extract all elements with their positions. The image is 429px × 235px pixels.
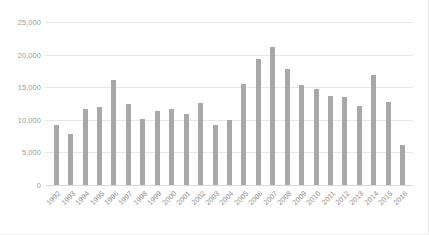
bar-slot <box>294 22 308 185</box>
x-label-slot: 2008 <box>280 186 294 232</box>
y-axis-tick-label: 5,000 <box>22 148 41 157</box>
bar-slot <box>179 22 193 185</box>
y-axis-tick-label: 25,000 <box>18 18 41 27</box>
bar-slot <box>266 22 280 185</box>
bar[interactable] <box>198 103 203 185</box>
bar-slot <box>92 22 106 185</box>
bar[interactable] <box>357 106 362 185</box>
bar-slot <box>107 22 121 185</box>
bar-slot <box>208 22 222 185</box>
bar[interactable] <box>241 84 246 185</box>
bar-slot <box>396 22 410 185</box>
bar[interactable] <box>111 80 116 185</box>
y-axis-tick-label: 20,000 <box>18 50 41 59</box>
bar-slot <box>193 22 207 185</box>
x-label-slot: 1996 <box>107 186 121 232</box>
bar-slot <box>323 22 337 185</box>
x-label-slot: 2010 <box>309 186 323 232</box>
bar[interactable] <box>371 75 376 185</box>
x-label-slot: 1993 <box>63 186 77 232</box>
bar[interactable] <box>68 134 73 186</box>
x-label-slot: 2011 <box>323 186 337 232</box>
x-label-slot: 2015 <box>381 186 395 232</box>
bar-slot <box>222 22 236 185</box>
bar-slot <box>352 22 366 185</box>
bar[interactable] <box>213 125 218 185</box>
x-label-slot: 2006 <box>251 186 265 232</box>
bar[interactable] <box>285 69 290 185</box>
y-axis-tick-label: 0 <box>37 181 41 190</box>
bar[interactable] <box>270 47 275 185</box>
x-label-slot: 2007 <box>266 186 280 232</box>
bar-slot <box>136 22 150 185</box>
bar-slot <box>280 22 294 185</box>
x-label-slot: 2001 <box>179 186 193 232</box>
x-label-slot: 1992 <box>49 186 63 232</box>
bar[interactable] <box>97 107 102 185</box>
bar[interactable] <box>155 111 160 185</box>
y-axis-tick-labels: 05,00010,00015,00020,00025,000 <box>0 22 41 185</box>
bar-slot <box>121 22 135 185</box>
bar[interactable] <box>140 119 145 186</box>
x-label-slot: 2002 <box>193 186 207 232</box>
bar[interactable] <box>299 85 304 185</box>
bar[interactable] <box>342 97 347 185</box>
x-label-slot: 2013 <box>352 186 366 232</box>
bar[interactable] <box>314 89 319 185</box>
bar[interactable] <box>328 96 333 185</box>
x-label-slot: 1998 <box>136 186 150 232</box>
x-label-slot: 1999 <box>150 186 164 232</box>
x-label-slot: 1997 <box>121 186 135 232</box>
x-label-slot: 2003 <box>208 186 222 232</box>
bar-slot <box>338 22 352 185</box>
bar[interactable] <box>83 109 88 185</box>
bar-slot <box>63 22 77 185</box>
x-label-slot: 2014 <box>367 186 381 232</box>
y-axis-tick-label: 10,000 <box>18 115 41 124</box>
x-label-slot: 1995 <box>92 186 106 232</box>
bar[interactable] <box>169 109 174 185</box>
bar-slot <box>165 22 179 185</box>
bar[interactable] <box>386 102 391 185</box>
bar[interactable] <box>400 145 405 185</box>
bar-slot <box>49 22 63 185</box>
x-axis-tick-label: 1992 <box>45 189 63 207</box>
bar[interactable] <box>256 59 261 185</box>
bar[interactable] <box>184 114 189 185</box>
bar-slot <box>381 22 395 185</box>
x-axis-tick-labels: 1992199319941995199619971998199920002001… <box>46 186 413 232</box>
x-label-slot: 2009 <box>294 186 308 232</box>
x-label-slot: 1994 <box>78 186 92 232</box>
x-label-slot: 2012 <box>338 186 352 232</box>
bar[interactable] <box>227 120 232 185</box>
bar-slot <box>309 22 323 185</box>
y-axis-tick-label: 15,000 <box>18 83 41 92</box>
x-label-slot: 2004 <box>222 186 236 232</box>
bar-slot <box>150 22 164 185</box>
bar-slot <box>78 22 92 185</box>
plot-area <box>46 22 413 185</box>
bar[interactable] <box>126 104 131 185</box>
bar-slot <box>367 22 381 185</box>
bar-chart: 05,00010,00015,00020,00025,000 199219931… <box>0 0 429 235</box>
bar-slot <box>237 22 251 185</box>
x-label-slot: 2005 <box>237 186 251 232</box>
x-label-slot: 2016 <box>396 186 410 232</box>
bar[interactable] <box>54 125 59 185</box>
x-label-slot: 2000 <box>165 186 179 232</box>
bar-series <box>46 22 413 185</box>
bar-slot <box>251 22 265 185</box>
